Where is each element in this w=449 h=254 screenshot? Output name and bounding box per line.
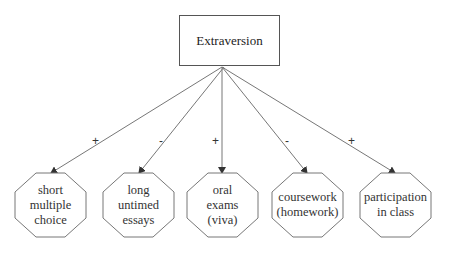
node-oral-exams: oral exams (viva) [187,173,258,237]
edge-short-multiple-choice [51,67,222,173]
node-label-line: (viva) [207,213,239,228]
edge-sign-long-untimed-essays: - [159,134,163,148]
edges [51,67,395,173]
node-label-line: untimed [118,198,159,213]
edge-sign-coursework: - [285,134,289,148]
node-label-line: long [118,183,159,198]
edge-participation [222,67,395,173]
node-label-line: choice [30,213,72,228]
edge-coursework [222,67,307,173]
node-label-line: short [30,183,72,198]
edge-sign-participation: + [348,134,355,148]
node-label-line: essays [118,213,159,228]
node-participation: participation in class [360,173,431,237]
node-long-untimed-essays: long untimed essays [103,173,174,237]
node-label-line: oral [207,183,239,198]
node-coursework: coursework (homework) [272,173,343,237]
root-node-label: Extraversion [196,33,262,49]
edge-sign-short-multiple-choice: + [92,134,99,148]
node-label-line: coursework [277,190,339,205]
node-label-line: in class [364,205,427,220]
node-label-line: multiple [30,198,72,213]
root-node-extraversion: Extraversion [179,15,280,66]
edge-sign-oral-exams: + [212,134,219,148]
node-short-multiple-choice: short multiple choice [15,173,86,237]
node-label-line: exams [207,198,239,213]
node-label-line: (homework) [277,205,339,220]
edge-long-untimed-essays [139,67,224,173]
node-label-line: participation [364,190,427,205]
